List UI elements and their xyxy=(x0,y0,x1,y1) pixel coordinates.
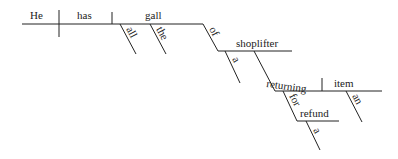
word-returning: returning xyxy=(266,77,308,95)
word-refund: refund xyxy=(300,107,329,119)
word-a1: a xyxy=(230,54,243,64)
word-the: the xyxy=(154,24,171,42)
modifier-line-a2 xyxy=(306,121,320,150)
word-shoplifter: shoplifter xyxy=(236,37,278,49)
word-verb: has xyxy=(77,9,92,21)
word-item: item xyxy=(334,77,354,89)
sentence-diagram: He has gall all the of shoplifter a retu… xyxy=(0,0,398,159)
word-object: gall xyxy=(145,9,162,21)
word-a2: a xyxy=(311,125,324,135)
word-subject: He xyxy=(30,9,43,21)
